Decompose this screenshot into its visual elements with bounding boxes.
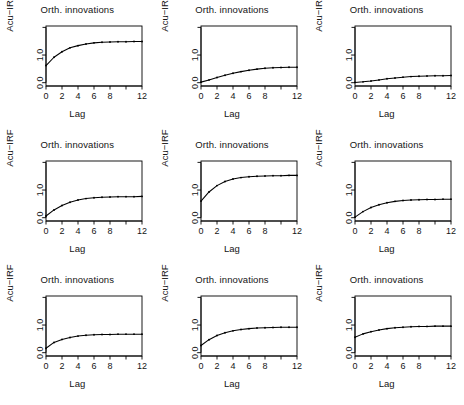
data-point bbox=[272, 175, 274, 177]
data-point bbox=[264, 67, 266, 69]
x-tick-label: 6 bbox=[401, 226, 406, 236]
data-point bbox=[256, 327, 258, 329]
data-point bbox=[248, 328, 250, 330]
data-point bbox=[141, 195, 143, 197]
y-tick-label: 0.0 bbox=[190, 346, 200, 359]
x-tick-label: 8 bbox=[262, 91, 267, 101]
data-point bbox=[45, 347, 47, 349]
data-point bbox=[450, 75, 452, 77]
data-point bbox=[442, 75, 444, 77]
data-point bbox=[362, 211, 364, 213]
plot-box bbox=[355, 161, 451, 221]
data-point bbox=[450, 325, 452, 327]
y-tick-label: 0.0 bbox=[35, 76, 45, 89]
panel-grid: Orth. innovationsAcu−IRFLag0.01.00246812… bbox=[0, 0, 464, 405]
y-tick-label: 0.0 bbox=[35, 211, 45, 224]
data-point bbox=[109, 41, 111, 43]
x-tick-label: 12 bbox=[137, 226, 147, 236]
x-tick-label: 8 bbox=[107, 361, 112, 371]
plot-box bbox=[46, 26, 142, 86]
y-tick-label: 0.0 bbox=[344, 346, 354, 359]
x-tick-label: 2 bbox=[214, 361, 219, 371]
data-point bbox=[69, 201, 71, 203]
x-tick-label: 12 bbox=[137, 91, 147, 101]
data-point bbox=[394, 327, 396, 329]
irf-line bbox=[355, 199, 451, 217]
plot-area: 0.01.00246812 bbox=[0, 270, 155, 405]
y-tick-label: 1.0 bbox=[35, 184, 45, 197]
data-point bbox=[53, 209, 55, 211]
x-tick-label: 0 bbox=[353, 226, 358, 236]
x-tick-label: 2 bbox=[369, 361, 374, 371]
data-point bbox=[133, 41, 135, 43]
data-point bbox=[264, 175, 266, 177]
x-tick-label: 2 bbox=[59, 361, 64, 371]
y-tick-label: 0.0 bbox=[35, 346, 45, 359]
data-point bbox=[288, 326, 290, 328]
data-point bbox=[442, 325, 444, 327]
x-tick-label: 12 bbox=[446, 226, 456, 236]
irf-panel-9: Orth. innovationsAcu−IRFLag0.01.00246812 bbox=[309, 270, 464, 405]
plot-area: 0.01.00246812 bbox=[155, 135, 310, 270]
plot-area: 0.01.00246812 bbox=[309, 135, 464, 270]
data-point bbox=[280, 175, 282, 177]
data-point bbox=[232, 330, 234, 332]
y-tick-label: 0.0 bbox=[344, 211, 354, 224]
data-point bbox=[370, 331, 372, 333]
plot-box bbox=[201, 296, 297, 356]
data-point bbox=[378, 79, 380, 81]
data-point bbox=[93, 334, 95, 336]
x-tick-label: 0 bbox=[43, 361, 48, 371]
x-tick-label: 4 bbox=[385, 91, 390, 101]
data-point bbox=[296, 66, 298, 68]
x-tick-label: 6 bbox=[246, 361, 251, 371]
x-tick-label: 0 bbox=[198, 226, 203, 236]
x-tick-label: 12 bbox=[292, 91, 302, 101]
y-tick-label: 1.0 bbox=[190, 184, 200, 197]
data-point bbox=[109, 333, 111, 335]
data-point bbox=[410, 199, 412, 201]
data-point bbox=[69, 47, 71, 49]
x-tick-label: 0 bbox=[43, 226, 48, 236]
data-point bbox=[53, 56, 55, 58]
data-point bbox=[370, 80, 372, 82]
data-point bbox=[133, 333, 135, 335]
x-tick-label: 12 bbox=[137, 361, 147, 371]
data-point bbox=[434, 325, 436, 327]
y-tick-label: 1.0 bbox=[344, 49, 354, 62]
data-point bbox=[77, 335, 79, 337]
plot-area: 0.01.00246812 bbox=[309, 0, 464, 135]
data-point bbox=[125, 41, 127, 43]
data-point bbox=[125, 333, 127, 335]
x-tick-label: 12 bbox=[292, 361, 302, 371]
x-tick-label: 6 bbox=[91, 91, 96, 101]
irf-panel-5: Orth. innovationsAcu−IRFLag0.01.00246812 bbox=[155, 135, 310, 270]
data-point bbox=[93, 42, 95, 44]
x-tick-label: 6 bbox=[246, 226, 251, 236]
data-point bbox=[61, 205, 63, 207]
x-tick-label: 8 bbox=[417, 361, 422, 371]
data-point bbox=[141, 41, 143, 43]
data-point bbox=[272, 67, 274, 69]
data-point bbox=[354, 336, 356, 338]
data-point bbox=[216, 76, 218, 78]
plot-box bbox=[201, 26, 297, 86]
x-tick-label: 8 bbox=[107, 91, 112, 101]
x-tick-label: 12 bbox=[292, 226, 302, 236]
data-point bbox=[101, 333, 103, 335]
data-point bbox=[296, 326, 298, 328]
data-point bbox=[240, 177, 242, 179]
data-point bbox=[200, 200, 202, 202]
x-tick-label: 6 bbox=[91, 226, 96, 236]
data-point bbox=[125, 196, 127, 198]
data-point bbox=[434, 75, 436, 77]
x-tick-label: 6 bbox=[401, 361, 406, 371]
data-point bbox=[77, 45, 79, 47]
x-tick-label: 4 bbox=[230, 91, 235, 101]
data-point bbox=[77, 199, 79, 201]
data-point bbox=[208, 191, 210, 193]
x-tick-label: 12 bbox=[446, 361, 456, 371]
data-point bbox=[85, 334, 87, 336]
data-point bbox=[418, 325, 420, 327]
data-point bbox=[354, 216, 356, 218]
